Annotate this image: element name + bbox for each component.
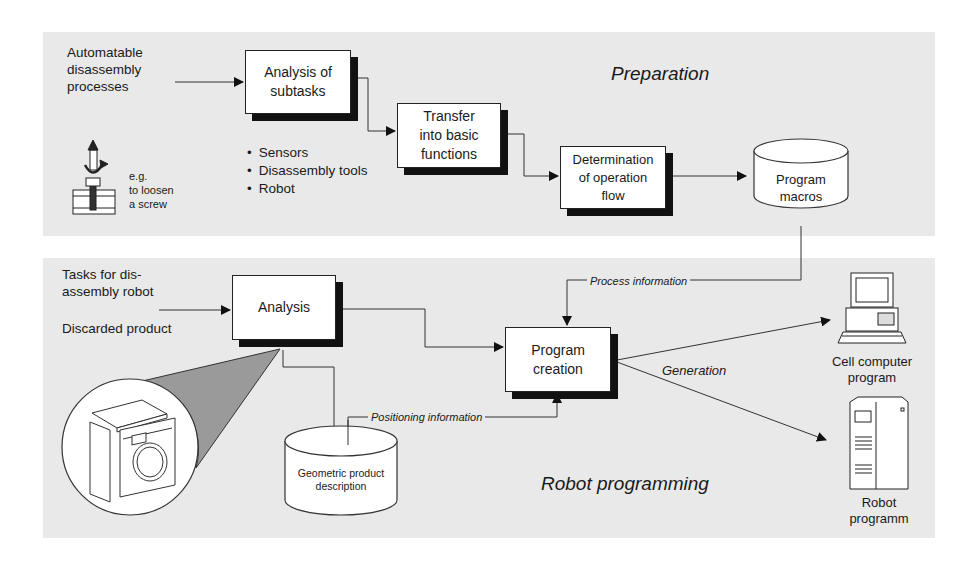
cell-computer-icon: [838, 273, 906, 343]
program-macros-label: Program macros: [754, 171, 848, 205]
washing-machine-icon: [62, 379, 198, 515]
example-label: e.g. to loosen a screw: [129, 169, 174, 211]
geometric-product-description-label: Geometric product description: [285, 467, 397, 493]
resource-bullet-list: Sensors Disassembly tools Robot: [247, 144, 368, 198]
bullet-item: Sensors: [247, 144, 368, 162]
process-information-label: Process information: [587, 274, 690, 288]
arrow-analysis-to-geometric: [283, 350, 334, 437]
program-creation-box[interactable]: Programcreation: [505, 327, 611, 392]
positioning-information-label: Positioning information: [368, 410, 485, 424]
arrow-transfer-to-determination: [500, 134, 558, 176]
robot-programm-label: Robot programm: [829, 495, 929, 527]
bullet-item: Robot: [247, 180, 368, 198]
robot-programming-heading: Robot programming: [541, 473, 709, 495]
preparation-heading: Preparation: [611, 63, 709, 85]
determination-operation-flow-box[interactable]: Determinationof operationflow: [560, 146, 666, 209]
automatable-processes-label: Automatable disassembly processes: [67, 44, 143, 95]
bullet-item: Disassembly tools: [247, 162, 368, 180]
analysis-of-subtasks-box[interactable]: Analysis ofsubtasks: [245, 50, 351, 114]
transfer-basic-functions-box[interactable]: Transferinto basicfunctions: [397, 103, 501, 168]
arrow-analysis-to-transfer: [350, 78, 395, 131]
discarded-product-label: Discarded product: [62, 320, 172, 337]
analysis-box[interactable]: Analysis: [232, 275, 336, 340]
tasks-label: Tasks for dis- assembly robot: [62, 266, 154, 300]
screw-icon: [73, 140, 115, 214]
robot-controller-icon: [850, 397, 908, 489]
arrow-analysis-to-program-creation: [310, 309, 503, 347]
cell-computer-program-label: Cell computer program: [822, 354, 922, 386]
generation-label: Generation: [662, 362, 726, 379]
arrow-generation-to-cell-computer: [617, 320, 830, 360]
